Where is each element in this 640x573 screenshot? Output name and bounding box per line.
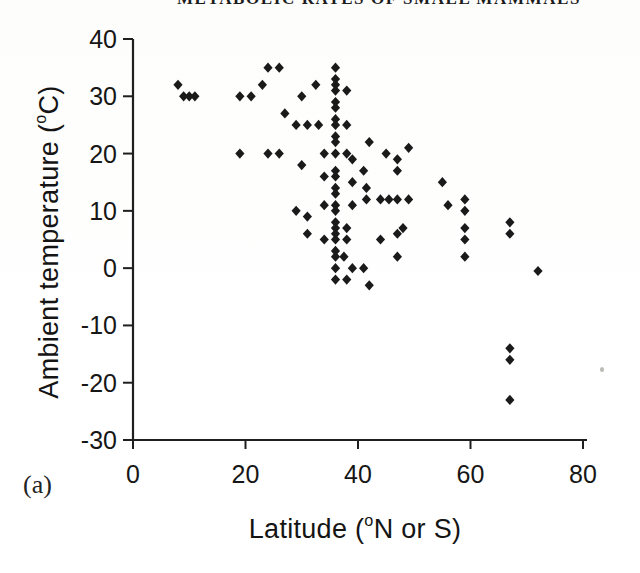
data-point-diamond: [342, 120, 351, 130]
x-tick-label: 0: [126, 460, 140, 488]
y-axis-label: Ambient temperature (oC): [34, 85, 65, 398]
data-point-diamond: [292, 120, 301, 130]
data-point-diamond: [384, 194, 393, 204]
data-point-diamond: [320, 200, 329, 210]
data-point-diamond: [505, 395, 514, 405]
data-point-diamond: [235, 91, 244, 101]
data-point-diamond: [533, 266, 542, 276]
data-point-diamond: [331, 63, 340, 73]
scatter-plot-canvas: 403020100-10-20-30020406080: [0, 0, 640, 573]
data-point-diamond: [362, 194, 371, 204]
data-point-diamond: [376, 194, 385, 204]
x-tick-label: 20: [232, 460, 260, 488]
data-point-diamond: [348, 177, 357, 187]
data-point-diamond: [365, 137, 374, 147]
data-point-diamond: [275, 63, 284, 73]
data-point-diamond: [443, 200, 452, 210]
data-point-diamond: [331, 148, 340, 158]
data-point-diamond: [362, 183, 371, 193]
data-point-diamond: [505, 217, 514, 227]
y-tick-label: 10: [89, 197, 117, 225]
data-point-diamond: [342, 275, 351, 285]
data-point-diamond: [505, 229, 514, 239]
data-point-diamond: [314, 120, 323, 130]
data-point-diamond: [331, 120, 340, 130]
data-point-diamond: [342, 223, 351, 233]
data-point-diamond: [235, 148, 244, 158]
y-tick-label: 40: [89, 25, 117, 53]
data-point-diamond: [342, 234, 351, 244]
data-point-diamond: [311, 80, 320, 90]
y-tick-label: 30: [89, 82, 117, 110]
data-point-diamond: [331, 263, 340, 273]
x-tick-label: 40: [344, 460, 372, 488]
data-point-diamond: [460, 252, 469, 262]
data-point-diamond: [331, 137, 340, 147]
data-point-diamond: [505, 355, 514, 365]
x-tick-label: 60: [457, 460, 485, 488]
y-tick-label: 0: [103, 254, 117, 282]
data-point-diamond: [460, 206, 469, 216]
data-point-diamond: [247, 91, 256, 101]
data-point-diamond: [303, 120, 312, 130]
x-tick-label: 80: [569, 460, 597, 488]
data-point-diamond: [505, 343, 514, 353]
data-point-diamond: [173, 80, 182, 90]
data-point-diamond: [365, 280, 374, 290]
degree-superscript: o: [30, 114, 48, 123]
data-point-diamond: [348, 263, 357, 273]
data-point-diamond: [297, 91, 306, 101]
data-point-diamond: [297, 160, 306, 170]
y-tick-label: -10: [81, 311, 117, 339]
data-point-diamond: [348, 200, 357, 210]
data-point-diamond: [320, 171, 329, 181]
data-point-diamond: [438, 177, 447, 187]
data-point-diamond: [331, 103, 340, 113]
data-point-diamond: [320, 148, 329, 158]
x-axis-label: Latitude (oN or S): [249, 514, 462, 545]
data-point-diamond: [331, 171, 340, 181]
data-point-diamond: [190, 91, 199, 101]
data-point-diamond: [393, 194, 402, 204]
degree-superscript: o: [364, 510, 373, 528]
data-point-diamond: [393, 252, 402, 262]
scan-artifact-dot: [600, 367, 604, 372]
data-point-diamond: [263, 148, 272, 158]
data-point-diamond: [331, 189, 340, 199]
data-point-diamond: [460, 194, 469, 204]
data-point-diamond: [263, 63, 272, 73]
data-point-diamond: [275, 148, 284, 158]
data-point-diamond: [382, 148, 391, 158]
data-point-diamond: [320, 234, 329, 244]
data-point-diamond: [331, 275, 340, 285]
data-point-diamond: [359, 263, 368, 273]
data-point-diamond: [339, 252, 348, 262]
data-point-diamond: [376, 234, 385, 244]
y-tick-label: 20: [89, 140, 117, 168]
data-point-diamond: [280, 108, 289, 118]
data-point-diamond: [331, 252, 340, 262]
data-point-diamond: [393, 166, 402, 176]
data-point-diamond: [359, 166, 368, 176]
data-point-diamond: [393, 154, 402, 164]
data-point-diamond: [404, 143, 413, 153]
data-point-diamond: [460, 223, 469, 233]
data-point-diamond: [331, 206, 340, 216]
data-point-diamond: [258, 80, 267, 90]
data-point-diamond: [303, 229, 312, 239]
data-point-diamond: [303, 211, 312, 221]
data-point-diamond: [342, 85, 351, 95]
scanned-page: METABOLIC RATES OF SMALL MAMMALS 4030201…: [0, 0, 640, 573]
data-point-diamond: [331, 85, 340, 95]
y-tick-label: -30: [81, 426, 117, 454]
data-point-diamond: [404, 194, 413, 204]
panel-label: (a): [23, 470, 52, 500]
data-point-diamond: [460, 234, 469, 244]
y-tick-label: -20: [81, 369, 117, 397]
data-point-diamond: [331, 234, 340, 244]
data-point-diamond: [292, 206, 301, 216]
